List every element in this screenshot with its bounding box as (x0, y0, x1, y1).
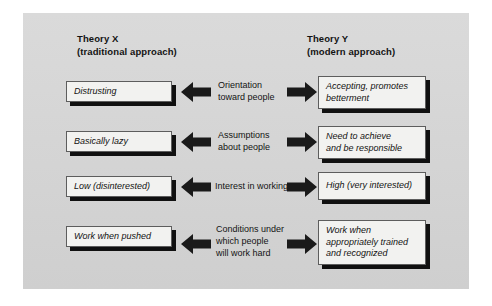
right-arrow-row-4 (287, 232, 317, 256)
theory-y-heading: Theory Y (modern approach) (307, 33, 395, 58)
left-arrow-row-3 (181, 175, 211, 199)
theory-y-box-row-2: Need to achieve and be responsible (318, 126, 426, 159)
right-arrow-row-1 (287, 80, 317, 104)
theory-y-box-row-4: Work when appropriately trained and reco… (318, 220, 426, 265)
theory-y-box-row-3: High (very interested) (318, 172, 426, 200)
theory-x-box-row-2: Basically lazy (66, 131, 172, 152)
right-arrow-row-2 (287, 130, 317, 154)
right-arrow-row-3 (287, 175, 317, 199)
center-label-row-4: Conditions under which people will work … (216, 223, 284, 260)
theory-x-box-row-1-text: Distrusting (67, 86, 124, 98)
center-label-row-3: Interest in working (215, 180, 288, 192)
left-arrow-row-1 (181, 80, 211, 104)
theory-y-box-row-2-text: Need to achieve and be responsible (319, 131, 409, 154)
theory-y-box-row-3-text: High (very interested) (319, 180, 419, 192)
theory-x-box-row-1: Distrusting (66, 81, 172, 102)
theory-x-box-row-2-text: Basically lazy (67, 136, 135, 148)
theory-y-box-row-4-text: Work when appropriately trained and reco… (319, 225, 415, 260)
left-arrow-row-4 (181, 232, 211, 256)
theory-y-box-row-1: Accepting, promotes betterment (318, 76, 426, 109)
center-label-row-2: Assumptions about people (218, 129, 270, 153)
theory-x-theory-y-diagram: Theory X (traditional approach) Theory Y… (0, 0, 492, 306)
theory-x-heading: Theory X (traditional approach) (77, 33, 177, 58)
theory-x-box-row-3-text: Low (disinterested) (67, 181, 157, 193)
left-arrow-row-2 (181, 130, 211, 154)
center-label-row-1: Orientation toward people (218, 79, 275, 103)
theory-x-box-row-4: Work when pushed (66, 226, 172, 247)
theory-x-box-row-4-text: Work when pushed (67, 231, 158, 243)
theory-x-box-row-3: Low (disinterested) (66, 176, 172, 197)
theory-y-box-row-1-text: Accepting, promotes betterment (319, 81, 415, 104)
